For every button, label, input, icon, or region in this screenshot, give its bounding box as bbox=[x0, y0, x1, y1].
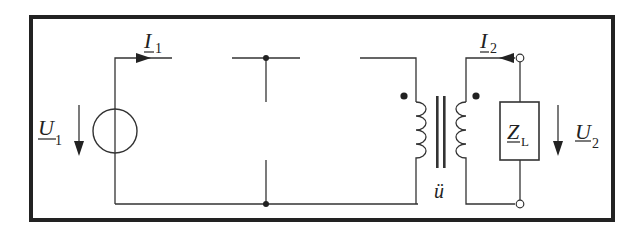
svg-text:2: 2 bbox=[490, 41, 497, 56]
terminal-bottom bbox=[516, 200, 524, 208]
svg-text:U: U bbox=[38, 115, 56, 140]
wire-primary-top bbox=[360, 58, 416, 102]
junction-dot-top bbox=[263, 55, 269, 61]
transformer-core-1 bbox=[436, 96, 439, 168]
i2-arrow-icon bbox=[499, 53, 514, 63]
svg-text:U: U bbox=[575, 119, 593, 144]
load-impedance-box bbox=[500, 102, 539, 160]
junction-dot-bottom bbox=[263, 201, 269, 207]
label-i2: I 2 bbox=[479, 28, 497, 56]
svg-text:1: 1 bbox=[155, 41, 162, 56]
label-zl: Z L bbox=[507, 119, 529, 149]
transformer-core-2 bbox=[443, 96, 446, 168]
polarity-dot-primary bbox=[400, 92, 407, 99]
label-u1: U 1 bbox=[38, 115, 62, 148]
label-turns-ratio: ü bbox=[434, 180, 444, 202]
svg-text:Z: Z bbox=[507, 119, 520, 144]
i1-arrow-icon bbox=[136, 53, 151, 63]
polarity-dot-secondary bbox=[472, 92, 479, 99]
terminal-top bbox=[516, 54, 524, 62]
u1-arrow-icon bbox=[74, 141, 84, 156]
svg-text:I: I bbox=[479, 28, 489, 53]
svg-text:1: 1 bbox=[55, 133, 62, 148]
secondary-coil bbox=[456, 102, 466, 160]
svg-text:I: I bbox=[143, 28, 153, 53]
circuit-diagram: I 1 I 2 U 1 U 2 Z L ü bbox=[0, 0, 644, 231]
primary-coil bbox=[416, 102, 426, 160]
label-u2: U 2 bbox=[575, 119, 599, 151]
svg-text:L: L bbox=[521, 134, 529, 149]
svg-text:2: 2 bbox=[592, 136, 599, 151]
label-i1: I 1 bbox=[143, 28, 162, 56]
u2-arrow-icon bbox=[553, 141, 563, 156]
